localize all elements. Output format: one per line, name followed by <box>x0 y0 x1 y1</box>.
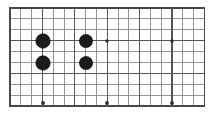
go-board-figure: Go board diagram <box>0 0 217 117</box>
black-stone[interactable] <box>36 56 50 70</box>
figure-background <box>0 0 217 117</box>
black-stone[interactable] <box>79 34 92 47</box>
star-point <box>41 101 45 105</box>
black-stone[interactable] <box>36 34 50 48</box>
star-point <box>105 101 109 105</box>
black-stone[interactable] <box>79 56 92 69</box>
go-board-canvas[interactable] <box>0 0 217 117</box>
star-point <box>170 101 174 105</box>
star-point <box>105 39 108 42</box>
star-point <box>170 39 173 42</box>
